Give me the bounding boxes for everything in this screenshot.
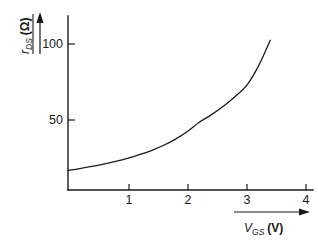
y-ticks-group	[68, 44, 75, 120]
x-tick-label-4: 4	[303, 193, 310, 207]
y-tick-label-50: 50	[49, 113, 63, 127]
y-tick-label-100: 100	[42, 37, 63, 51]
plot-svg: rDS(Ω) 100 50	[0, 0, 318, 242]
x-axis-title-subscript: GS	[252, 227, 265, 237]
figure-container: rDS(Ω) 100 50	[0, 0, 318, 242]
y-axis-title: rDS(Ω)	[18, 18, 34, 54]
x-tick-labels-group: 1 2 3 4	[126, 193, 310, 207]
y-axis-title-unit: (Ω)	[18, 18, 32, 36]
x-axis-title-unit: (V)	[267, 221, 283, 235]
x-tick-label-2: 2	[185, 193, 192, 207]
x-axis-title-group: VGS(V)	[234, 208, 310, 237]
data-curve-line	[68, 40, 270, 170]
y-axis-title-group: rDS(Ω)	[18, 12, 44, 54]
x-ticks-group	[129, 184, 306, 190]
x-axis-title: VGS(V)	[244, 221, 283, 237]
x-axis-arrow-head	[299, 208, 310, 215]
y-tick-labels-group: 100 50	[42, 37, 63, 127]
x-tick-label-3: 3	[244, 193, 251, 207]
y-axis-arrow-head	[36, 12, 43, 23]
x-tick-label-1: 1	[126, 193, 133, 207]
